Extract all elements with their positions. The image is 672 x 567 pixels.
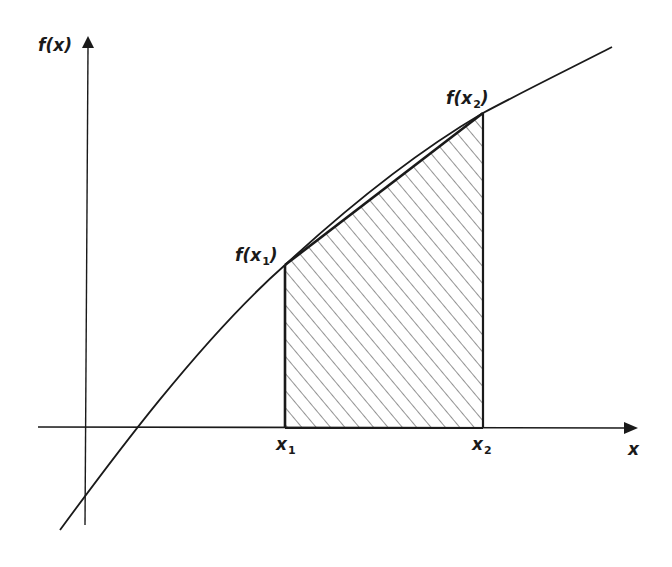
x1-label: x1 <box>276 436 296 456</box>
y-axis-label-text: f(x) <box>38 35 72 55</box>
x1-var: x <box>276 434 287 454</box>
y-axis <box>82 36 94 525</box>
x-axis-arrow-icon <box>624 422 638 434</box>
y-axis-arrow-icon <box>82 36 94 48</box>
fx1-subscript: 1 <box>262 255 270 268</box>
fx1-prefix: f( <box>235 245 250 265</box>
fx2-subscript: 2 <box>473 98 481 111</box>
diagram-canvas <box>0 0 672 567</box>
fx2-var: x <box>461 88 472 108</box>
fx1-label: f(x1) <box>235 247 278 267</box>
fx2-prefix: f( <box>446 88 461 108</box>
fx1-suffix: ) <box>270 245 278 265</box>
fx2-label: f(x2) <box>446 90 489 110</box>
x-axis-label-text: x <box>628 439 639 459</box>
x2-var: x <box>472 434 483 454</box>
x-axis-label: x <box>628 441 639 458</box>
x1-subscript: 1 <box>288 444 296 457</box>
shaded-trapezoid <box>280 100 490 430</box>
y-axis-label: f(x) <box>38 37 72 54</box>
x2-subscript: 2 <box>484 444 492 457</box>
fx2-suffix: ) <box>481 88 489 108</box>
fx1-var: x <box>250 245 261 265</box>
x2-label: x2 <box>472 436 492 456</box>
